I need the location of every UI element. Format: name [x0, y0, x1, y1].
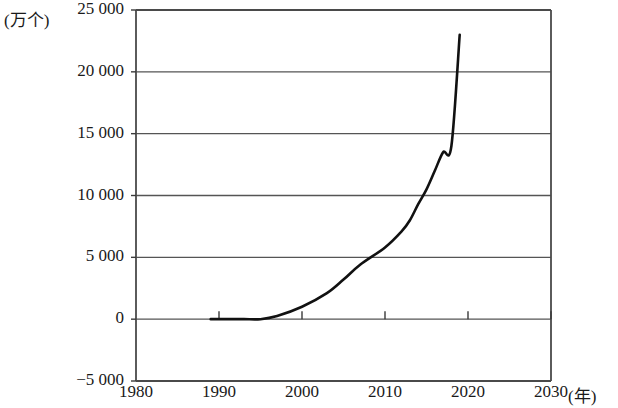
x-tick-label: 2010	[350, 382, 420, 402]
x-tick-label: 2020	[433, 382, 503, 402]
chart-container: (万个) (年) 25 00020 00015 00010 0005 0000−…	[0, 0, 618, 408]
x-tick-label: 2000	[267, 382, 337, 402]
y-tick-label: 5 000	[14, 246, 124, 266]
y-tick-label: 15 000	[14, 123, 124, 143]
y-tick-label: 25 000	[14, 0, 124, 19]
series-line	[211, 35, 460, 320]
x-tick-label: 1980	[101, 382, 171, 402]
data-series-lines	[211, 35, 460, 320]
y-tick-label: 10 000	[14, 185, 124, 205]
x-tick-label: 1990	[184, 382, 254, 402]
x-tick-label: 2030	[516, 382, 586, 402]
gridlines	[136, 72, 551, 319]
y-tick-label: 0	[14, 308, 124, 328]
y-tick-label: 20 000	[14, 61, 124, 81]
